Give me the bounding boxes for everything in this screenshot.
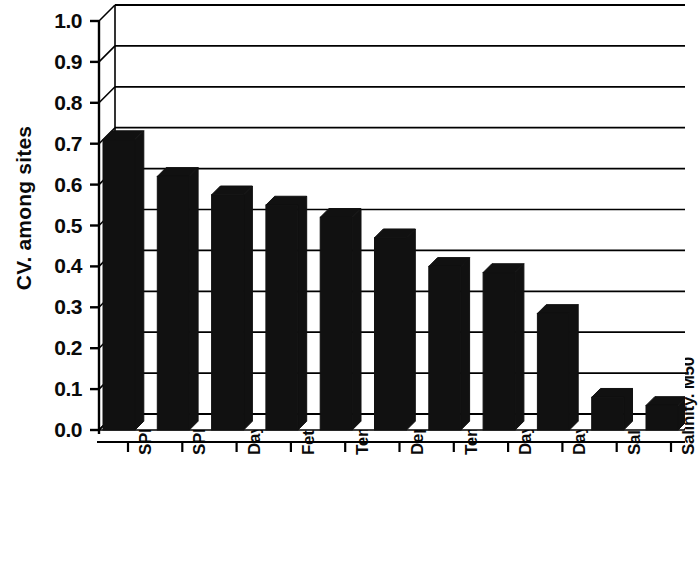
bar-front-face [592,397,624,430]
bar-side-face [569,305,578,430]
bar-front-face [103,140,135,430]
bar [646,397,685,430]
gridline-connector [99,87,115,103]
bar-front-face [375,238,407,430]
bar [375,229,416,430]
gridline-connector [99,5,115,21]
bar-front-face [157,176,189,430]
bar-side-face [515,264,524,430]
bar-front-face [429,266,461,430]
bar-side-face [298,196,307,430]
bar [429,258,470,430]
gridline-connector [99,46,115,62]
bar [592,388,633,430]
bar-side-face [244,186,253,430]
bar [266,196,307,430]
bar-side-face [135,131,144,430]
bar-front-face [266,205,298,430]
bar-side-face [407,229,416,430]
bar [212,186,253,430]
bar-front-face [483,273,515,430]
bar-side-face [461,258,470,430]
bar-front-face [537,313,569,430]
bar [537,305,578,430]
bar [483,264,524,430]
bar-front-face [212,195,244,430]
bar-front-face [320,217,352,430]
bar-front-face [646,405,678,430]
bar [320,209,361,430]
bar [157,168,198,430]
bar-side-face [189,168,198,430]
bar [103,131,144,430]
bar-side-face [352,209,361,430]
